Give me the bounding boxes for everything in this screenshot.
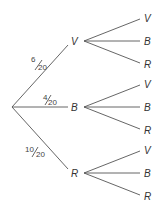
prob-r-numerator: 10 — [25, 145, 34, 154]
node-r: R — [71, 168, 78, 179]
prob-b: 4 20 — [43, 93, 57, 107]
node-v: V — [71, 36, 79, 47]
leaf-v-r: R — [144, 59, 151, 70]
node-b: B — [71, 102, 78, 113]
leaf-b-b: B — [144, 102, 151, 113]
prob-b-denominator: 20 — [48, 98, 57, 107]
prob-r: 10 20 — [25, 145, 45, 159]
leaf-r-r: R — [144, 191, 151, 202]
edge-b-to-r — [84, 107, 140, 129]
leaf-r-v: V — [144, 145, 152, 156]
prob-r-denominator: 20 — [36, 150, 45, 159]
edge-root-to-r — [12, 107, 68, 169]
edge-r-to-r — [84, 173, 140, 195]
edge-b-to-v — [84, 85, 140, 107]
leaf-v-v: V — [144, 13, 152, 24]
prob-v-numerator: 6 — [31, 55, 36, 64]
probability-tree-diagram: V B R 6 20 4 20 10 20 V B R V B R V B R — [0, 0, 158, 216]
edge-root-to-v — [12, 45, 68, 107]
leaf-r-b: B — [144, 168, 151, 179]
edge-r-to-v — [84, 151, 140, 173]
leaf-b-v: V — [144, 79, 152, 90]
edge-v-to-r — [84, 41, 140, 63]
prob-v-denominator: 20 — [38, 63, 47, 72]
prob-v: 6 20 — [31, 55, 47, 72]
leaf-v-b: B — [144, 36, 151, 47]
leaf-b-r: R — [144, 125, 151, 136]
edge-v-to-v — [84, 19, 140, 41]
